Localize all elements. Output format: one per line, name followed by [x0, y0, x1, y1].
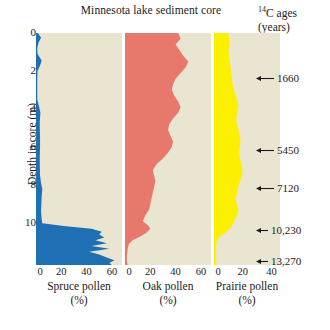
panel-caption-line2: (%) [125, 293, 211, 307]
carbon-ages-unit: (years) [258, 21, 290, 33]
panel-caption-spruce: Spruce pollen(%) [36, 279, 122, 307]
carbon-age-row: 13,270 [256, 254, 301, 268]
pollen-diagram-figure: Minnesota lake sediment core 14C ages (y… [0, 0, 330, 330]
left-arrow-icon [256, 226, 268, 235]
depth-tick-label: 4 [18, 102, 36, 114]
x-tick-label: 40 [170, 266, 181, 277]
carbon-age-row: 5450 [256, 143, 299, 157]
pollen-area-oak [125, 33, 188, 265]
x-axis-spruce: 0204060Spruce pollen(%) [36, 266, 122, 296]
x-tick-label: 0 [215, 266, 220, 277]
left-arrow-icon [256, 146, 274, 155]
carbon-ages-header: 14C ages (years) [258, 3, 328, 34]
x-ticks-spruce: 0204060 [36, 266, 122, 279]
depth-tick-label: 8 [18, 178, 36, 190]
panel-caption-line1: Prairie pollen [214, 279, 280, 293]
panel-caption-line1: Spruce pollen [36, 279, 122, 293]
depth-axis: 0246810 [14, 33, 36, 265]
x-tick-label: 20 [237, 266, 248, 277]
carbon-age-label: 13,270 [271, 256, 301, 268]
x-tick-label: 60 [196, 266, 207, 277]
x-tick-label: 20 [56, 266, 67, 277]
x-tick-label: 0 [126, 266, 131, 277]
x-tick-label: 40 [81, 266, 92, 277]
pollen-area-prairie [214, 33, 243, 265]
left-arrow-icon [256, 184, 274, 193]
x-ticks-oak: 0204060 [125, 266, 211, 279]
depth-tick-label: 2 [18, 64, 36, 76]
left-arrow-icon [256, 257, 268, 266]
pollen-panel-oak [125, 33, 211, 265]
panel-caption-line1: Oak pollen [125, 279, 211, 293]
carbon-age-row: 10,230 [256, 223, 301, 237]
carbon-ages-title: 14C ages [258, 7, 297, 19]
panel-caption-prairie: Prairie pollen(%) [214, 279, 280, 307]
isotope-superscript: 14 [258, 5, 266, 14]
carbon-age-row: 7120 [256, 181, 299, 195]
depth-tick-label: 10 [18, 216, 36, 228]
panel-caption-line2: (%) [214, 293, 280, 307]
left-arrow-icon [256, 74, 274, 83]
carbon-age-label: 10,230 [271, 224, 301, 236]
x-tick-label: 60 [107, 266, 118, 277]
x-axis-oak: 0204060Oak pollen(%) [125, 266, 211, 296]
depth-tick-label: 6 [18, 140, 36, 152]
carbon-age-label: 5450 [277, 144, 299, 156]
carbon-age-label: 1660 [277, 72, 299, 84]
carbon-ages-main: C ages [266, 7, 297, 19]
pollen-curve-spruce [36, 33, 122, 265]
carbon-age-row: 1660 [256, 71, 299, 85]
pollen-panel-spruce [36, 33, 122, 265]
depth-tick-label: 0 [18, 26, 36, 38]
pollen-area-spruce [36, 33, 114, 265]
carbon-age-label: 7120 [277, 182, 299, 194]
panel-caption-line2: (%) [36, 293, 122, 307]
x-tick-label: 20 [145, 266, 156, 277]
x-tick-label: 0 [37, 266, 42, 277]
figure-title: Minnesota lake sediment core [48, 4, 254, 16]
x-axis-prairie: 02040Prairie pollen(%) [214, 266, 280, 296]
panel-caption-oak: Oak pollen(%) [125, 279, 211, 307]
pollen-curve-oak [125, 33, 211, 265]
